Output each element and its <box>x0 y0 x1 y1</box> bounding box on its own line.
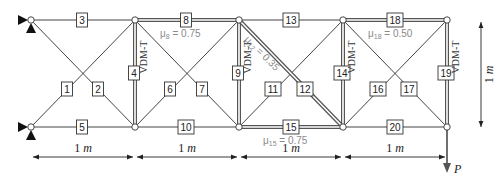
member-number: 3 <box>79 15 85 26</box>
member-number: 4 <box>131 68 137 79</box>
span-dimension-2: 1 m <box>137 141 237 157</box>
supports <box>18 15 36 140</box>
member-label-12: 12 <box>297 82 313 96</box>
member-label-6: 6 <box>165 82 176 96</box>
node-T2 <box>236 17 242 23</box>
vdm-label-9: VDM-T <box>242 41 253 74</box>
truss-diagram: 1234567891011121314151617181920 μ8 = 0.7… <box>0 0 500 177</box>
node-T0 <box>28 17 34 23</box>
member-label-1: 1 <box>62 82 73 96</box>
member-number: 1 <box>64 84 70 95</box>
member-number: 17 <box>403 84 415 95</box>
member-number: 16 <box>372 84 384 95</box>
vdm-label-4: VDM-T <box>138 41 149 74</box>
node-T1 <box>132 17 138 23</box>
vdm-label-19: VDM-T <box>450 41 461 74</box>
vdm-label-14: VDM-T <box>346 41 357 74</box>
member-number: 2 <box>95 84 101 95</box>
member-number: 18 <box>389 15 401 26</box>
span-dimension-1: 1 m <box>33 141 133 157</box>
friction-annotation-mu8: μ8 = 0.75 <box>160 28 201 40</box>
member-number: 12 <box>299 84 311 95</box>
member-number: 20 <box>389 122 401 133</box>
span-dimension-4: 1 m <box>345 141 445 157</box>
member-number: 11 <box>268 84 279 95</box>
member-number: 5 <box>79 122 85 133</box>
member-number: 7 <box>199 84 205 95</box>
member-label-16: 16 <box>370 82 386 96</box>
member-number: 10 <box>180 122 192 133</box>
member-number: 13 <box>285 15 297 26</box>
friction-annotation-mu18: μ18 = 0.50 <box>368 28 413 40</box>
member-label-13: 13 <box>283 13 299 27</box>
member-label-17: 17 <box>401 82 417 96</box>
node-B2 <box>236 124 242 130</box>
member-label-2: 2 <box>93 82 104 96</box>
member-label-11: 11 <box>265 82 281 96</box>
svg-text:1 m: 1 m <box>282 141 300 155</box>
member-label-7: 7 <box>197 82 208 96</box>
node-B3 <box>340 124 346 130</box>
node-B1 <box>132 124 138 130</box>
member-number: 6 <box>167 84 173 95</box>
member-label-10: 10 <box>178 120 194 134</box>
member-number: 8 <box>183 15 189 26</box>
node-B4 <box>444 124 450 130</box>
load-arrow-icon <box>443 130 451 173</box>
member-number: 9 <box>235 68 241 79</box>
member-number: 15 <box>285 122 297 133</box>
node-T3 <box>340 17 346 23</box>
member-label-8: 8 <box>181 13 192 27</box>
span-dimension-3: 1 m <box>241 141 341 157</box>
member-label-18: 18 <box>387 13 403 27</box>
member-label-5: 5 <box>77 120 88 134</box>
member-label-3: 3 <box>77 13 88 27</box>
member-label-15: 15 <box>283 120 299 134</box>
node-T4 <box>444 17 450 23</box>
svg-text:1 m: 1 m <box>74 141 92 155</box>
svg-text:1 m: 1 m <box>482 65 496 83</box>
load: P <box>443 130 462 176</box>
node-B0 <box>28 124 34 130</box>
height-dimension: 1 m <box>481 22 496 127</box>
svg-text:1 m: 1 m <box>386 141 404 155</box>
load-label: P <box>453 162 462 176</box>
svg-text:1 m: 1 m <box>178 141 196 155</box>
member-label-20: 20 <box>387 120 403 134</box>
